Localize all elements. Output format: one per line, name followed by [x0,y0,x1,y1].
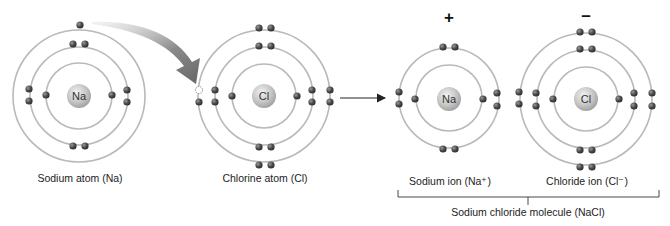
electron [255,42,262,49]
charge-sign: – [581,6,590,25]
atom-caption: Sodium atom (Na) [37,172,122,184]
electron [615,95,622,102]
electron [81,142,88,149]
nucleus-label: Na [72,90,87,102]
electron [69,40,76,47]
electron [267,42,274,49]
electron [42,91,49,98]
electron [308,98,315,105]
electron [493,102,500,109]
electron [630,89,637,96]
electron [255,161,262,168]
sodium-ion: + Na Sodium ion (Na⁺) [395,8,500,187]
electron [81,40,88,47]
electron [576,163,583,170]
electron [648,89,655,96]
electron [395,100,402,107]
electron [576,45,583,52]
electron [451,43,458,50]
electron [267,161,274,168]
sodium-atom: Na Sodium atom (Na) [13,21,145,184]
electron [439,145,446,152]
electron [411,95,418,102]
electron [25,97,32,104]
electron [588,45,595,52]
ionic-bond-diagram: Na Sodium atom (Na) Cl [0,0,670,226]
electron [123,86,130,93]
electron [326,98,333,105]
chloride-ion: – Cl Chloride ion (Cl⁻) [515,6,655,187]
electron-transfer-arrow [92,22,200,84]
electron-vacancy [195,86,202,93]
electron [532,102,539,109]
atom-caption: Chlorine atom (Cl) [222,172,307,184]
electron [267,24,274,31]
electron [588,28,595,35]
electron [108,91,115,98]
electron [69,142,76,149]
electron [515,100,522,107]
electron [228,92,235,99]
ion-caption: Sodium ion (Na⁺) [409,175,491,187]
ion-caption: Chloride ion (Cl⁻) [546,175,628,187]
electron [211,98,218,105]
electron [588,163,595,170]
bracket-label: Sodium chloride molecule (NaCl) [451,206,604,218]
electron [451,145,458,152]
electron [395,88,402,95]
electron [648,102,655,109]
electron [293,92,300,99]
electron [576,28,583,35]
nucleus-label: Cl [581,93,591,105]
charge-sign: + [444,8,454,27]
electron [532,89,539,96]
electron [515,88,522,95]
electron [576,146,583,153]
electron [439,43,446,50]
electron [255,143,262,150]
electron [479,95,486,102]
electron [549,95,556,102]
electron [326,86,333,93]
electron [588,146,595,153]
electron [211,86,218,93]
electron [255,24,262,31]
electron [25,85,32,92]
nucleus-label: Cl [259,90,269,102]
chlorine-atom: Cl Chlorine atom (Cl) [195,24,333,184]
valence-electron [76,21,83,28]
electron [123,98,130,105]
electron [195,98,202,105]
nucleus-label: Na [442,93,457,105]
electron [267,143,274,150]
electron [630,102,637,109]
nacl-bracket: Sodium chloride molecule (NaCl) [398,190,659,218]
electron [308,86,315,93]
electron [493,89,500,96]
